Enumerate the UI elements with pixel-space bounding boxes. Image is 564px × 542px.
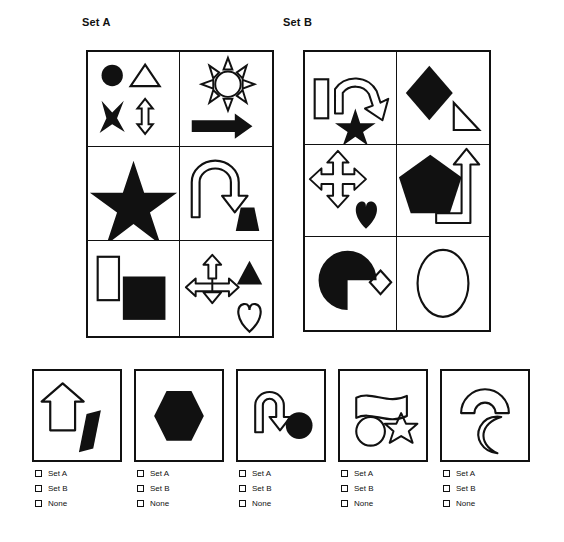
option-3-choice-set-a[interactable]: Set A [236, 467, 326, 480]
checkbox-icon[interactable] [443, 470, 450, 477]
filled-hexagon [154, 391, 204, 441]
option-3-choice-set-b[interactable]: Set B [236, 482, 326, 495]
filled-diamond [406, 66, 453, 121]
outline-double-arrow-vertical [137, 99, 152, 134]
outline-four-way-arrow [310, 151, 366, 208]
filled-circle [102, 65, 123, 86]
option-4-choice-set-a[interactable]: Set A [338, 467, 428, 480]
option-2-figure [134, 369, 224, 462]
option-2-choice-set-b[interactable]: Set B [134, 482, 224, 495]
checkbox-icon[interactable] [35, 470, 42, 477]
outline-sun [202, 58, 255, 111]
checkbox-icon[interactable] [443, 500, 450, 507]
filled-triangle [237, 261, 262, 285]
cell-b2 [397, 52, 489, 145]
figure-classification-page: Set A [0, 0, 564, 542]
outline-up-arrow [42, 383, 84, 430]
checkbox-icon[interactable] [341, 500, 348, 507]
filled-right-arrow [192, 113, 253, 138]
cell-a5 [88, 241, 180, 336]
option-1-choice-set-b[interactable]: Set B [32, 482, 122, 495]
option-1-choice-none[interactable]: None [32, 497, 122, 510]
choice-label: Set B [354, 484, 374, 493]
cell-a3 [88, 147, 180, 242]
cell-a4 [180, 147, 272, 242]
outline-right-triangle [454, 103, 479, 130]
option-4-choices: Set A Set B None [338, 467, 428, 510]
cell-a2 [180, 52, 272, 147]
option-4-figure [338, 369, 428, 462]
choice-label: Set B [252, 484, 272, 493]
filled-slanted-rectangle [79, 410, 101, 452]
choice-label: None [354, 499, 373, 508]
filled-five-point-star [90, 160, 177, 240]
outline-ellipse [418, 250, 469, 317]
outline-rectangle [98, 257, 119, 300]
outline-arch [461, 389, 509, 413]
checkbox-icon[interactable] [137, 500, 144, 507]
filled-heart [356, 201, 377, 228]
option-5-choice-set-b[interactable]: Set B [440, 482, 530, 495]
option-2-choices: Set A Set B None [134, 467, 224, 510]
outline-u-turn-arrow [255, 392, 290, 432]
option-5-choice-set-a[interactable]: Set A [440, 467, 530, 480]
option-1-choice-set-a[interactable]: Set A [32, 467, 122, 480]
cell-b6 [397, 237, 489, 330]
option-4: Set A Set B None [338, 369, 428, 512]
outline-rectangle [315, 79, 329, 118]
choice-label: Set A [48, 469, 67, 478]
outline-triangle [131, 65, 160, 86]
set-b-grid [303, 50, 491, 332]
choice-label: Set B [456, 484, 476, 493]
option-3: Set A Set B None [236, 369, 326, 512]
choice-label: Set A [456, 469, 475, 478]
checkbox-icon[interactable] [137, 470, 144, 477]
option-1-figure [32, 369, 122, 462]
outline-u-turn-arrow [192, 160, 248, 217]
outline-four-way-arrow [203, 255, 221, 303]
option-2-choice-set-a[interactable]: Set A [134, 467, 224, 480]
choice-label: Set A [252, 469, 271, 478]
checkbox-icon[interactable] [239, 485, 246, 492]
option-3-choice-none[interactable]: None [236, 497, 326, 510]
filled-half-circle [319, 251, 377, 310]
filled-square [123, 277, 166, 320]
filled-trapezoid [236, 207, 259, 230]
option-4-choice-none[interactable]: None [338, 497, 428, 510]
set-a-label: Set A [82, 16, 111, 28]
option-5-choice-none[interactable]: None [440, 497, 530, 510]
outline-crescent [478, 417, 501, 454]
checkbox-icon[interactable] [341, 470, 348, 477]
set-b-label: Set B [283, 16, 312, 28]
filled-four-point-star [100, 101, 125, 133]
checkbox-icon[interactable] [239, 470, 246, 477]
set-a-grid [86, 50, 274, 338]
option-5-choices: Set A Set B None [440, 467, 530, 510]
cell-b4 [397, 145, 489, 238]
cell-a1 [88, 52, 180, 147]
filled-circle [286, 412, 313, 439]
choice-label: None [48, 499, 67, 508]
cell-b5 [305, 237, 397, 330]
option-3-figure [236, 369, 326, 462]
checkbox-icon[interactable] [137, 485, 144, 492]
choice-label: Set B [48, 484, 68, 493]
option-2-choice-none[interactable]: None [134, 497, 224, 510]
cell-b1 [305, 52, 397, 145]
option-4-choice-set-b[interactable]: Set B [338, 482, 428, 495]
filled-pentagon [399, 154, 462, 213]
option-5-figure [440, 369, 530, 462]
checkbox-icon[interactable] [239, 500, 246, 507]
option-1: Set A Set B None [32, 369, 122, 512]
checkbox-icon[interactable] [35, 500, 42, 507]
cell-b3 [305, 145, 397, 238]
checkbox-icon[interactable] [341, 485, 348, 492]
choice-label: None [252, 499, 271, 508]
option-2: Set A Set B None [134, 369, 224, 512]
checkbox-icon[interactable] [443, 485, 450, 492]
outline-circle [356, 417, 385, 446]
choice-label: Set A [150, 469, 169, 478]
option-1-choices: Set A Set B None [32, 467, 122, 510]
cell-a6 [180, 241, 272, 336]
checkbox-icon[interactable] [35, 485, 42, 492]
